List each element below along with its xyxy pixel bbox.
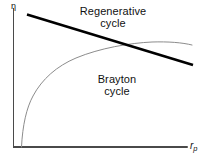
regenerative-cycle-label-line1: Regenerative <box>68 6 158 18</box>
x-axis-label: rp <box>190 141 198 153</box>
regenerative-cycle-label-line2: cycle <box>68 18 158 30</box>
brayton-cycle-label-line2: cycle <box>74 86 160 98</box>
y-axis-label: η <box>11 2 16 11</box>
regenerative-cycle-label: Regenerative cycle <box>68 6 158 29</box>
thermodynamic-efficiency-chart: Regenerative cycle Brayton cycle η rp <box>0 0 209 161</box>
brayton-cycle-label: Brayton cycle <box>74 74 160 97</box>
x-axis-label-subscript: p <box>193 144 197 153</box>
brayton-cycle-label-line1: Brayton <box>74 74 160 86</box>
